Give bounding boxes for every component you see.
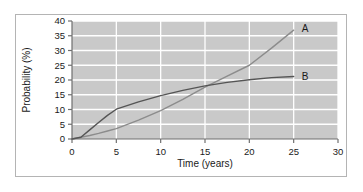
- figure-frame: 0510152025303540 051015202530 AB Time (y…: [15, 14, 347, 177]
- y-tick-label: 25: [54, 60, 65, 71]
- y-tick-label: 10: [54, 104, 65, 115]
- x-tick-label: 10: [155, 146, 166, 157]
- y-tick-label: 30: [54, 45, 65, 56]
- series-label-a: A: [302, 23, 309, 34]
- y-tick-label: 40: [54, 15, 65, 26]
- x-tick-label: 25: [288, 146, 299, 157]
- y-axis-title: Probability (%): [21, 47, 32, 112]
- y-tick-label: 35: [54, 30, 65, 41]
- series-label-b: B: [302, 71, 309, 82]
- y-tick-label: 0: [60, 133, 65, 144]
- x-axis-tick-labels: 051015202530: [69, 146, 343, 157]
- x-tick-label: 0: [69, 146, 74, 157]
- x-tick-label: 30: [333, 146, 344, 157]
- y-tick-label: 20: [54, 74, 65, 85]
- x-tick-label: 20: [244, 146, 255, 157]
- y-tick-label: 15: [54, 89, 65, 100]
- y-tick-label: 5: [60, 119, 65, 130]
- x-tick-label: 5: [114, 146, 119, 157]
- line-chart: 0510152025303540 051015202530 AB Time (y…: [16, 15, 346, 176]
- x-tick-label: 15: [200, 146, 211, 157]
- x-axis-ticks: [72, 139, 338, 143]
- x-axis-title: Time (years): [177, 158, 233, 169]
- y-axis-tick-labels: 0510152025303540: [54, 15, 65, 144]
